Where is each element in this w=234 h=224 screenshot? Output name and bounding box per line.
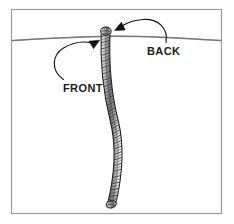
tube-top-tip	[100, 26, 113, 36]
front-label: FRONT	[63, 83, 103, 94]
figure-illustration	[0, 0, 234, 224]
back-label: BACK	[147, 46, 180, 57]
figure-panel: FRONT BACK	[0, 0, 234, 224]
